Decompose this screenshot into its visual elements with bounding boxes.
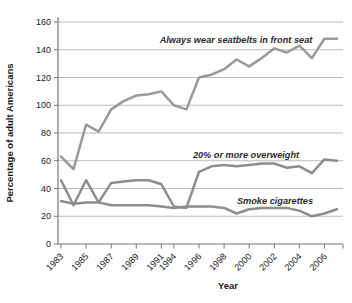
- y-tick-label: 40: [41, 184, 51, 194]
- x-tick-label: 1987: [94, 251, 115, 272]
- x-tick-label: 1989: [119, 251, 140, 272]
- x-tick-label: 2004: [283, 251, 304, 272]
- x-tick-label: 2006: [308, 251, 329, 272]
- seatbelt-series-label: Always wear seatbelts in front seat: [159, 35, 314, 45]
- x-axis-title: Year: [218, 280, 238, 291]
- y-tick-label: 60: [41, 156, 51, 166]
- x-tick-label: 1985: [69, 251, 90, 272]
- x-tick-label: 1983: [44, 251, 65, 272]
- y-tick-label: 80: [41, 128, 51, 138]
- x-tick-label: 2002: [257, 251, 278, 272]
- y-axis-title: Percentage of adult Americans: [4, 63, 15, 202]
- chart-figure: 0204060801001201401601983198519871989199…: [0, 0, 352, 303]
- series-lines: [61, 39, 337, 217]
- smoke-series-label: Smoke cigarettes: [237, 196, 313, 206]
- line-chart: 0204060801001201401601983198519871989199…: [0, 0, 352, 303]
- x-tick-label: 1998: [207, 251, 228, 272]
- y-tick-label: 100: [36, 100, 51, 110]
- x-tick-label: 1996: [182, 251, 203, 272]
- y-tick-label: 140: [36, 45, 51, 55]
- gridlines: [58, 22, 343, 216]
- overweight-series-label: 20% or more overweight: [192, 150, 300, 160]
- y-tick-label: 160: [36, 17, 51, 27]
- x-tick-label: 2000: [232, 251, 253, 272]
- y-tick-label: 20: [41, 211, 51, 221]
- y-tick-label: 0: [46, 239, 51, 249]
- y-tick-label: 120: [36, 73, 51, 83]
